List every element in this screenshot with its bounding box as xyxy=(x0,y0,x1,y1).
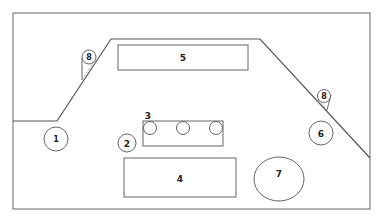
label-6: 6 xyxy=(318,129,324,139)
label-3: 3 xyxy=(145,111,151,121)
label-8-left: 8 xyxy=(86,53,92,62)
outer-border xyxy=(13,13,370,209)
box-3-circle-2 xyxy=(177,122,190,135)
label-1: 1 xyxy=(53,135,59,144)
box-3-circle-1 xyxy=(144,122,157,135)
box-3-circle-3 xyxy=(210,122,223,135)
ellipse-7 xyxy=(254,157,304,201)
label-7: 7 xyxy=(276,169,282,179)
label-4: 4 xyxy=(177,174,183,184)
label-2: 2 xyxy=(124,139,130,149)
zone-outline xyxy=(13,39,370,158)
floor-plan-diagram: 5 3 4 1 2 6 7 8 8 xyxy=(0,0,384,221)
label-5: 5 xyxy=(180,53,186,63)
label-8-right: 8 xyxy=(321,92,327,101)
callout-8-right: 8 xyxy=(318,90,332,111)
box-3 xyxy=(143,121,223,146)
